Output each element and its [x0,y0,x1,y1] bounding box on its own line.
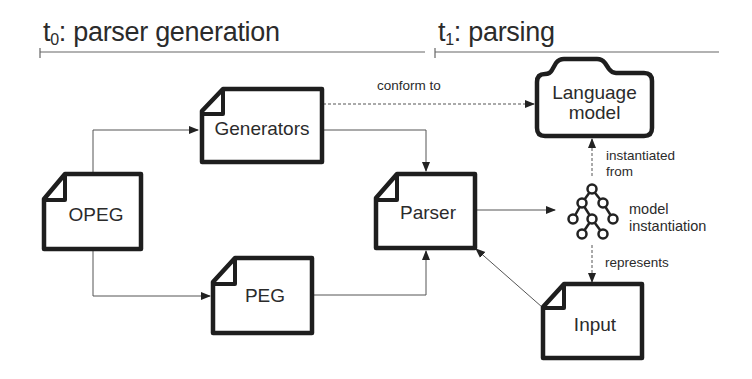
phase-subscript: 0 [50,31,59,48]
edge-opeg-to-peg [93,250,210,296]
phase-label: : parsing [454,17,555,47]
model-instantiation-line2: instantiation [629,218,706,235]
edge-opeg-to-generators [93,130,198,173]
parser-label: Parser [385,202,471,224]
edge-peg-to-parser [313,251,426,295]
phase-title-t0: t0: parser generation [43,17,280,49]
phase-subscript: 1 [445,31,454,48]
conform-to-label: conform to [377,78,441,94]
diagram-canvas [0,0,752,379]
generators-label: Generators [202,118,322,140]
language-model-line2: model [537,103,652,123]
represents-label: represents [605,255,669,271]
timeline-t0 [40,48,425,58]
input-label: Input [555,314,635,336]
instantiated-from-label: instantiated from [606,148,675,180]
edge-generators-to-parser [323,130,426,171]
phase-label: : parser generation [59,17,280,47]
edge-input-to-parser [476,249,542,307]
model-instantiation-label: model instantiation [629,201,706,235]
phase-title-t1: t1: parsing [438,17,555,49]
tree-icon [569,185,618,239]
timeline-t1 [435,48,719,58]
language-model-label: Language model [537,83,652,123]
peg-label: PEG [225,285,305,307]
model-instantiation-line1: model [629,201,706,218]
opeg-label: OPEG [56,204,136,226]
language-model-line1: Language [537,83,652,103]
instantiated-from-line2: from [606,164,675,180]
instantiated-from-line1: instantiated [606,148,675,164]
